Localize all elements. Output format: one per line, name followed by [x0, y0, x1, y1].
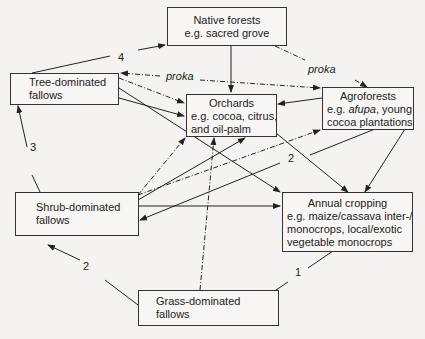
node-orchards-line3: and oil-palm	[191, 123, 272, 136]
node-tree-fallows-line1: Tree-dominated	[29, 76, 114, 89]
edge-label-annual-to-grass: 1	[295, 266, 301, 278]
edge-label-proka-right: proka	[308, 63, 336, 75]
node-agroforests-line3: cocoa plantations	[327, 116, 409, 129]
afupa-term: afupa	[348, 103, 376, 115]
node-annual-cropping: Annual cropping e.g. maize/cassava inter…	[282, 192, 413, 252]
node-agroforests-title: Agroforests	[327, 90, 409, 103]
node-grass-fallows-line1: Grass-dominated	[156, 295, 274, 308]
node-native-forests-example: e.g. sacred grove	[172, 27, 282, 40]
node-shrub-fallows-line2: fallows	[36, 214, 134, 227]
node-tree-fallows-line2: fallows	[29, 89, 114, 102]
node-annual-cropping-title: Annual cropping	[287, 197, 408, 210]
edge-label-tree-to-native: 4	[118, 51, 124, 63]
node-grass-fallows-line2: fallows	[156, 308, 274, 321]
node-tree-dominated-fallows: Tree-dominated fallows	[10, 73, 119, 105]
edge-label-proka-left: proka	[166, 70, 194, 82]
node-agroforests: Agroforests e.g. afupa, young cocoa plan…	[322, 87, 414, 130]
node-orchards: Orchards e.g. cocoa, citrus, and oil-pal…	[186, 94, 277, 137]
node-native-forests-title: Native forests	[172, 14, 282, 27]
node-orchards-line2: e.g. cocoa, citrus,	[191, 110, 272, 123]
node-shrub-fallows-line1: Shrub-dominated	[36, 201, 134, 214]
node-grass-dominated-fallows: Grass-dominated fallows	[138, 290, 279, 326]
node-shrub-dominated-fallows: Shrub-dominated fallows	[15, 192, 139, 236]
transition-arrows	[0, 0, 425, 339]
land-use-transition-diagram: Native forests e.g. sacred grove Tree-do…	[0, 0, 425, 339]
node-orchards-title: Orchards	[191, 97, 272, 110]
edge-label-grass-to-shrub: 2	[83, 260, 89, 272]
node-annual-cropping-line2: e.g. maize/cassava inter-/	[287, 210, 408, 223]
node-native-forests: Native forests e.g. sacred grove	[167, 7, 287, 46]
node-annual-cropping-line3: monocrops, local/exotic	[287, 223, 408, 236]
node-agroforests-line2: e.g. afupa, young	[327, 103, 409, 116]
edge-label-shrub-to-tree: 3	[30, 141, 36, 153]
edge-label-agro-to-shrub: 2	[288, 152, 294, 164]
node-annual-cropping-line4: vegetable monocrops	[287, 236, 408, 249]
